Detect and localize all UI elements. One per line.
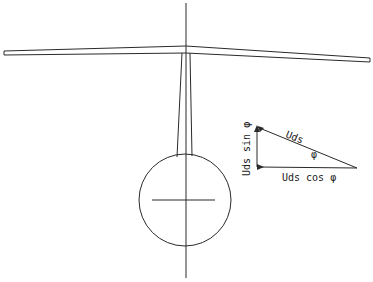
wing xyxy=(4,46,370,62)
arrowhead-left xyxy=(257,164,264,170)
velocity-vector-triangle xyxy=(254,125,357,170)
label-uds-sin: Uds sin φ xyxy=(241,122,252,176)
label-uds-cos: Uds cos φ xyxy=(282,172,336,183)
aircraft-gust-diagram: Uds φ Uds cos φ Uds sin φ xyxy=(0,0,373,282)
label-phi: φ xyxy=(311,149,317,160)
hypotenuse-vector xyxy=(257,127,357,168)
label-uds: Uds xyxy=(284,129,305,146)
strut-right-edge xyxy=(190,53,192,156)
horizontal-vector xyxy=(258,167,357,168)
strut-left-edge xyxy=(177,53,182,157)
